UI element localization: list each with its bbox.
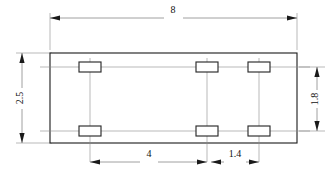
dimension-label-overall-width: 2.5 (14, 92, 25, 105)
dimension-pad-pitch-long: 4 (90, 148, 207, 164)
technical-drawing-canvas: 8 2.5 (0, 0, 331, 178)
dimension-label-pad-pitch-short: 1.4 (229, 148, 242, 159)
arrowhead-bottom-icon (19, 133, 24, 143)
arrowhead-left-icon (90, 159, 100, 164)
dimension-label-overall-length: 8 (171, 4, 176, 15)
arrowhead-top-icon (19, 53, 24, 63)
dimension-overall-width: 2.5 (14, 53, 52, 143)
dimension-overall-length: 8 (50, 4, 297, 50)
dimension-pad-row-spacing: 1.8 (299, 67, 325, 131)
arrowhead-top-icon (314, 67, 319, 77)
arrowhead-left-icon (211, 159, 221, 164)
arrowhead-right-icon (197, 159, 207, 164)
pad-terminal (248, 62, 270, 72)
pad-terminal (79, 62, 101, 72)
arrowhead-bottom-icon (314, 121, 319, 131)
pad-terminal (248, 126, 270, 136)
arrowhead-right-icon (287, 15, 297, 20)
arrowhead-left-icon (50, 15, 60, 20)
outline-drawing-svg: 8 2.5 (0, 0, 331, 178)
dimension-label-pad-pitch-long: 4 (147, 148, 152, 159)
pad-terminal (196, 62, 218, 72)
pad-terminal (196, 126, 218, 136)
dimension-label-pad-row-spacing: 1.8 (309, 93, 320, 106)
dimension-pad-pitch-short: 1.4 (211, 148, 259, 164)
pad-terminal (79, 126, 101, 136)
arrowhead-right-icon (249, 159, 259, 164)
